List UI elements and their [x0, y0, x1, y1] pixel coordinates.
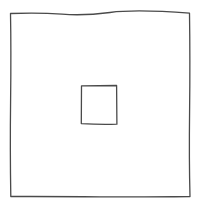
inner-square: [81, 86, 117, 125]
outer-square: [10, 11, 190, 197]
sketch-canvas: [0, 0, 200, 199]
